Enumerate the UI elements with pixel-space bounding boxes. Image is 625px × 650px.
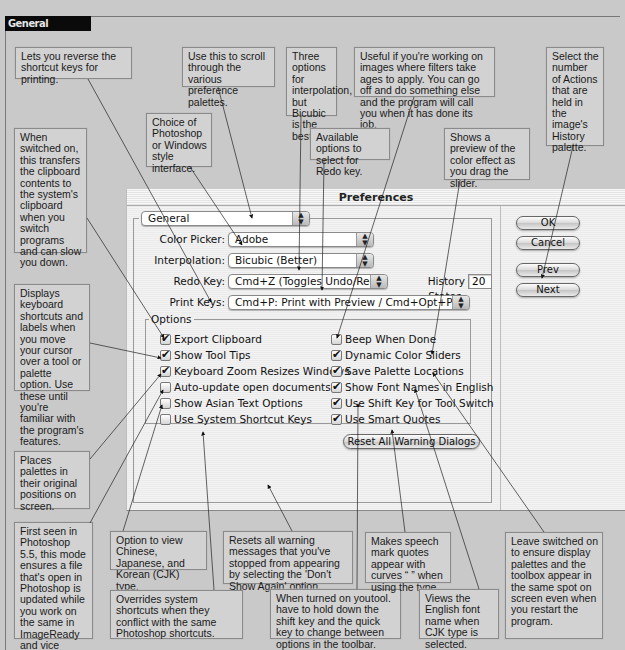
updown-arrows-icon: ▲▼	[292, 212, 309, 225]
checkbox-icon[interactable]	[331, 334, 342, 345]
callout-color-picker: Choice of Photoshop or Windows style int…	[146, 113, 212, 167]
redo-key-label: Redo Key:	[135, 274, 225, 289]
checkbox-label: Save Palette Locations	[345, 365, 464, 377]
checkbox-export-clipboard[interactable]: Export Clipboard	[160, 332, 262, 346]
group-line	[491, 218, 492, 502]
callout-print-keys: Lets you reverse the shortcut keys for p…	[15, 47, 132, 79]
callout-export-clipboard: When switched on, this transfers the cli…	[14, 128, 87, 253]
options-legend: Options	[149, 313, 194, 325]
checkbox-auto-update[interactable]: Auto-update open documents	[160, 380, 331, 394]
checkbox-beep-when-done[interactable]: Beep When Done	[331, 332, 436, 346]
redo-key-select[interactable]: Cmd+Z (Toggles Undo/Redo) ▲▼	[228, 274, 388, 289]
group-line	[133, 502, 492, 503]
checkbox-icon[interactable]	[160, 398, 171, 409]
checkbox-show-tool-tips[interactable]: Show Tool Tips	[160, 348, 251, 362]
checkbox-icon[interactable]	[331, 350, 342, 361]
interpolation-label: Interpolation:	[135, 253, 225, 268]
checkbox-asian-text[interactable]: Show Asian Text Options	[160, 396, 303, 410]
callout-font-names: Views the English font name when CJK typ…	[419, 589, 499, 639]
dialog-titlebar[interactable]: Preferences	[127, 189, 625, 206]
checkbox-label: Show Tool Tips	[174, 349, 251, 361]
checkbox-label: Show Font Names in English	[345, 381, 493, 393]
checkbox-icon[interactable]	[160, 382, 171, 393]
checkbox-dynamic-sliders[interactable]: Dynamic Color Sliders	[331, 348, 461, 362]
checkbox-font-names-english[interactable]: Show Font Names in English	[331, 380, 493, 394]
checkbox-icon[interactable]	[331, 398, 342, 409]
callout-history: Select the number of Actions that are he…	[546, 47, 604, 146]
checkbox-smart-quotes[interactable]: Use Smart Quotes	[331, 412, 440, 426]
color-picker-label: Color Picker:	[135, 232, 225, 247]
group-line	[133, 218, 134, 502]
updown-arrows-icon: ▲▼	[370, 275, 387, 288]
callout-color-sliders: Shows a preview of the color effect as y…	[444, 128, 530, 180]
checkbox-icon[interactable]	[160, 366, 171, 377]
callout-palette-locations: Leave switched on to ensure display pale…	[505, 532, 603, 639]
interpolation-select[interactable]: Bicubic (Better) ▲▼	[228, 253, 374, 268]
next-button[interactable]: Next	[516, 283, 580, 297]
checkbox-icon[interactable]	[331, 382, 342, 393]
checkbox-system-shortcuts[interactable]: Use System Shortcut Keys	[160, 412, 312, 426]
print-keys-value: Cmd+P: Print with Preview / Cmd+Opt+P: P…	[235, 296, 470, 308]
reset-warnings-button[interactable]: Reset All Warning Dialogs	[343, 434, 480, 449]
checkbox-save-palette[interactable]: Save Palette Locations	[331, 364, 464, 378]
divider	[500, 206, 501, 510]
checkbox-icon[interactable]	[331, 366, 342, 377]
callout-zoom-resize: Places palettes in their original positi…	[14, 451, 90, 509]
panel-select[interactable]: General ▲▼	[141, 211, 310, 226]
color-picker-value: Adobe	[235, 233, 268, 245]
section-title: General	[5, 16, 91, 31]
panel-select-value: General	[148, 212, 189, 224]
checkbox-icon[interactable]	[160, 334, 171, 345]
checkbox-icon[interactable]	[160, 414, 171, 425]
checkbox-label: Use Smart Quotes	[345, 413, 440, 425]
callout-panel-scroll: Use this to scroll through the various p…	[182, 47, 275, 87]
cancel-button[interactable]: Cancel	[516, 236, 580, 250]
callout-tool-tips: Displays keyboard shortcuts and labels w…	[14, 284, 90, 391]
interpolation-value: Bicubic (Better)	[235, 254, 317, 266]
preferences-dialog: Preferences General ▲▼ Color Picker: Ado…	[126, 189, 625, 511]
print-keys-label: Print Keys:	[135, 295, 225, 310]
checkbox-keyboard-zoom[interactable]: Keyboard Zoom Resizes Windows	[160, 364, 350, 378]
checkbox-label: Auto-update open documents	[174, 381, 331, 393]
print-keys-select[interactable]: Cmd+P: Print with Preview / Cmd+Opt+P: P…	[228, 295, 470, 310]
updown-arrows-icon: ▲▼	[356, 233, 373, 246]
color-picker-select[interactable]: Adobe ▲▼	[228, 232, 374, 247]
redo-key-value: Cmd+Z (Toggles Undo/Redo)	[235, 275, 387, 287]
callout-auto-update: First seen in Photoshop 5.5, this mode e…	[14, 522, 93, 639]
checkbox-label: Dynamic Color Sliders	[345, 349, 461, 361]
checkbox-label: Export Clipboard	[174, 333, 262, 345]
callout-asian-text: Option to view Chinese, Japanese, and Ko…	[110, 531, 207, 570]
checkbox-shift-key[interactable]: Use Shift Key for Tool Switch	[331, 396, 494, 410]
checkbox-label: Use System Shortcut Keys	[174, 413, 312, 425]
callout-smart-quotes: Makes speech mark quotes appear with cur…	[365, 532, 451, 583]
ok-button[interactable]: OK	[516, 216, 580, 230]
callout-interpolation: Three options for interpolation, but Bic…	[286, 47, 337, 116]
callout-beep: Useful if you're working on images where…	[354, 47, 495, 97]
callout-reset-warnings: Resets all warning messages that you've …	[223, 531, 353, 584]
callout-system-shortcuts: Overrides system shortcuts when they con…	[110, 590, 243, 639]
history-states-input[interactable]: 20	[468, 274, 492, 289]
checkbox-icon[interactable]	[160, 350, 171, 361]
checkbox-label: Keyboard Zoom Resizes Windows	[174, 365, 350, 377]
prev-button[interactable]: Prev	[516, 263, 580, 277]
updown-arrows-icon: ▲▼	[452, 296, 469, 309]
callout-redo: Available options to select for Redo key…	[310, 128, 390, 160]
checkbox-label: Use Shift Key for Tool Switch	[345, 397, 494, 409]
checkbox-label: Show Asian Text Options	[174, 397, 303, 409]
updown-arrows-icon: ▲▼	[356, 254, 373, 267]
checkbox-icon[interactable]	[331, 414, 342, 425]
checkbox-label: Beep When Done	[345, 333, 436, 345]
